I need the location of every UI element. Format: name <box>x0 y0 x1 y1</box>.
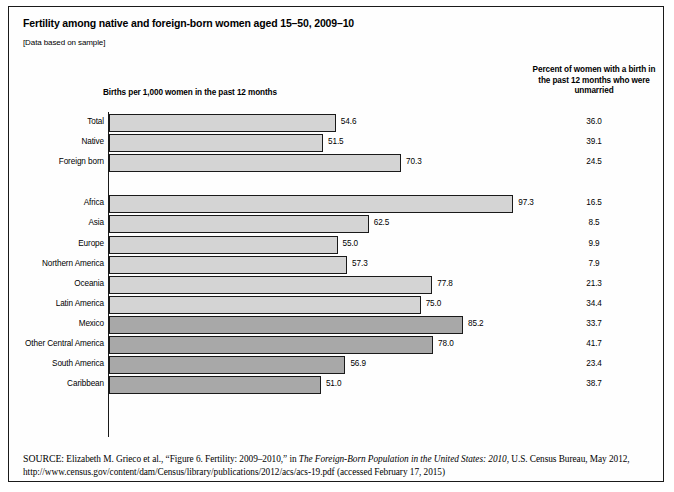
bar-value-label: 85.2 <box>468 319 484 328</box>
bar-category-label: Mexico <box>79 319 104 328</box>
bar <box>109 215 369 233</box>
figure-frame: Fertility among native and foreign-born … <box>8 6 664 482</box>
percent-unmarried-value: 16.5 <box>529 198 659 207</box>
bar-value-label: 51.0 <box>326 379 342 388</box>
percent-unmarried-value: 41.7 <box>529 339 659 348</box>
percent-unmarried-value: 8.5 <box>529 218 659 227</box>
percent-unmarried-value: 7.9 <box>529 259 659 268</box>
bar <box>109 376 321 394</box>
bar-value-label: 77.8 <box>437 279 453 288</box>
bar-row: Northern America57.37.9 <box>9 255 665 275</box>
bar-category-label: Total <box>87 117 104 126</box>
bar-category-label: Europe <box>78 239 104 248</box>
percent-unmarried-value: 36.0 <box>529 117 659 126</box>
bar-row: Asia62.58.5 <box>9 214 665 234</box>
percent-unmarried-value: 34.4 <box>529 299 659 308</box>
percent-unmarried-value: 39.1 <box>529 137 659 146</box>
bar-row: Africa97.316.5 <box>9 194 665 214</box>
bar-value-label: 55.0 <box>343 239 359 248</box>
bar <box>109 276 432 294</box>
bar <box>109 134 323 152</box>
bar-value-label: 62.5 <box>374 218 390 227</box>
bar-value-label: 54.6 <box>341 117 357 126</box>
bar <box>109 114 336 132</box>
bar-row: Caribbean51.038.7 <box>9 375 665 395</box>
bar-category-label: Northern America <box>42 259 104 268</box>
bar-row: Mexico85.233.7 <box>9 315 665 335</box>
percent-unmarried-value: 21.3 <box>529 279 659 288</box>
bar-row: Total54.636.0 <box>9 113 665 133</box>
bar-value-label: 75.0 <box>426 299 442 308</box>
bar-category-label: Oceania <box>74 279 104 288</box>
bar-row: Native51.539.1 <box>9 133 665 153</box>
bar-row: Latin America75.034.4 <box>9 295 665 315</box>
bar-category-label: South America <box>52 359 104 368</box>
bar-category-label: Asia <box>88 218 104 227</box>
bar <box>109 336 433 354</box>
bar-category-label: Latin America <box>56 299 104 308</box>
bar-row: Europe55.09.9 <box>9 235 665 255</box>
source-label: SOURCE: <box>23 453 64 464</box>
bar <box>109 296 421 314</box>
percent-unmarried-value: 23.4 <box>529 359 659 368</box>
bar <box>109 236 338 254</box>
chart-plot-area: Total54.636.0Native51.539.1Foreign born7… <box>9 7 665 483</box>
bar-category-label: Other Central America <box>25 339 104 348</box>
bar-value-label: 51.5 <box>328 137 344 146</box>
bar-value-label: 57.3 <box>352 259 368 268</box>
source-text-part1: Elizabeth M. Grieco et al., “Figure 6. F… <box>64 454 299 464</box>
bar-category-label: Caribbean <box>67 379 104 388</box>
bar <box>109 256 347 274</box>
bar-value-label: 78.0 <box>438 339 454 348</box>
bar <box>109 316 463 334</box>
bar-value-label: 56.9 <box>350 359 366 368</box>
percent-unmarried-value: 33.7 <box>529 319 659 328</box>
bar-category-label: Native <box>81 137 104 146</box>
bar-category-label: Foreign born <box>59 157 104 166</box>
bar-row: Oceania77.821.3 <box>9 275 665 295</box>
source-note: SOURCE: Elizabeth M. Grieco et al., “Fig… <box>23 453 653 478</box>
bar <box>109 154 401 172</box>
percent-unmarried-value: 9.9 <box>529 239 659 248</box>
source-publication-title: The Foreign-Born Population in the Unite… <box>299 454 507 464</box>
bar-category-label: Africa <box>84 198 104 207</box>
bar-row: Other Central America78.041.7 <box>9 335 665 355</box>
bar-row: Foreign born70.324.5 <box>9 153 665 173</box>
bar-row: South America56.923.4 <box>9 355 665 375</box>
bar-value-label: 70.3 <box>406 157 422 166</box>
bar <box>109 356 345 374</box>
bar <box>109 195 513 213</box>
percent-unmarried-value: 38.7 <box>529 379 659 388</box>
percent-unmarried-value: 24.5 <box>529 157 659 166</box>
